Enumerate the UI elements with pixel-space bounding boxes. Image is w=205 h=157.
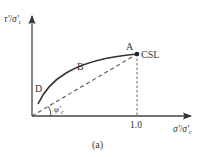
stress-path-curve (38, 54, 137, 104)
point-label-csl: CSL (141, 49, 159, 60)
angle-label-phi: φ'c (54, 104, 64, 115)
point-label-d: D (35, 83, 42, 94)
csl-dashed-line (32, 54, 137, 116)
x-axis-label: σ'/σ'c (173, 124, 192, 135)
point-label-b: B (77, 61, 84, 72)
diagram-canvas: τ'/σ'c σ'/σ'c 1.0 A CSL B D φ'c (a) (0, 0, 205, 157)
point-a-marker (135, 52, 140, 57)
x-tick-label: 1.0 (130, 120, 142, 130)
figure-caption: (a) (92, 139, 103, 151)
angle-arc (48, 106, 51, 116)
y-axis-label: τ'/σ'c (4, 14, 22, 25)
point-label-a: A (126, 41, 134, 52)
